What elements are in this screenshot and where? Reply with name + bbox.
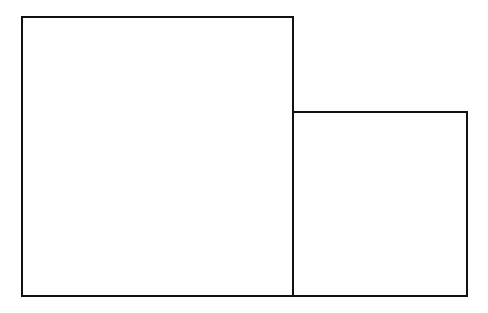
small-rectangle	[292, 111, 468, 297]
large-square	[21, 16, 294, 297]
